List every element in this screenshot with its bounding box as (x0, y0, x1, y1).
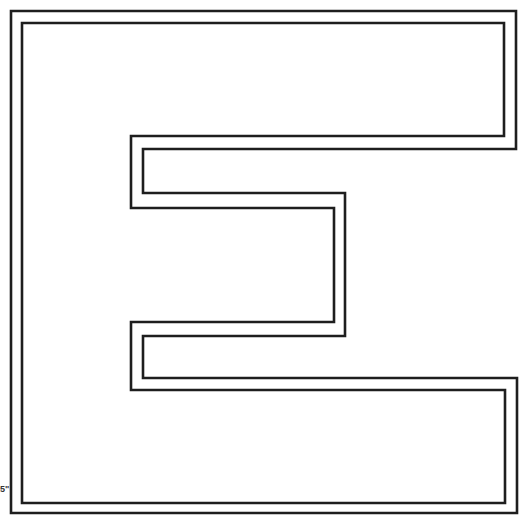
edge-mark-text: 5" (0, 485, 9, 494)
letter-e-outline-artwork (0, 0, 526, 516)
outer-contour (11, 11, 517, 513)
inner-contour (22, 23, 505, 503)
